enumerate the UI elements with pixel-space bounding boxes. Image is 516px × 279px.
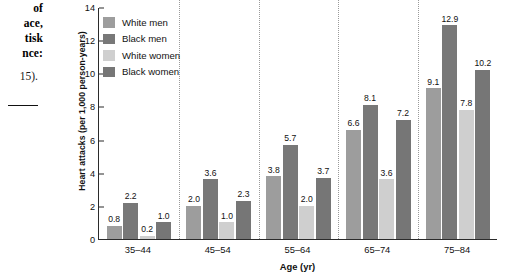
legend-swatch [103, 34, 115, 45]
legend-label: White men [122, 17, 168, 28]
bar-value-label: 2.0 [301, 194, 313, 204]
caption-divider [8, 105, 38, 106]
bar: 2.0 [186, 206, 201, 239]
y-tick-label: 6 [69, 136, 95, 146]
caption-line-1: of [33, 2, 43, 14]
bar: 3.6 [379, 179, 394, 239]
y-tick-label: 4 [69, 169, 95, 179]
caption-reference: 15). [20, 70, 38, 82]
legend-label: Black women [122, 66, 179, 77]
y-tick-mark [99, 206, 104, 207]
bar: 12.9 [442, 25, 457, 239]
legend-item: Black men [103, 31, 180, 48]
legend-label: White women [122, 50, 180, 61]
bar-value-label: 3.6 [381, 168, 393, 178]
bar: 5.7 [283, 145, 298, 239]
bar-value-label: 2.3 [237, 189, 249, 199]
x-tick-label: 55–64 [284, 244, 310, 255]
legend-item: Black women [103, 64, 180, 81]
figure-caption-fragment: of ace, tisk nce: 15). [0, 0, 46, 279]
y-tick-label: 8 [69, 102, 95, 112]
bar: 2.3 [236, 201, 251, 239]
y-tick-mark [99, 140, 104, 141]
bar: 3.7 [316, 178, 331, 239]
y-tick-label: 14 [69, 3, 95, 13]
bar-value-label: 7.2 [397, 108, 409, 118]
bar-value-label: 0.2 [141, 224, 153, 234]
y-tick-label: 0 [69, 235, 95, 245]
bar: 10.2 [475, 70, 490, 239]
bar: 9.1 [426, 88, 441, 239]
y-tick-mark [99, 8, 104, 9]
bar-value-label: 1.0 [221, 211, 233, 221]
x-tick-label: 35–44 [125, 244, 151, 255]
legend-swatch [103, 50, 115, 61]
bar-value-label: 1.0 [158, 211, 170, 221]
bar-value-label: 8.1 [364, 93, 376, 103]
bar: 2.2 [123, 203, 138, 239]
bar: 7.8 [459, 110, 474, 239]
bar-value-label: 3.7 [317, 166, 329, 176]
y-tick-mark [99, 107, 104, 108]
legend-item: White men [103, 14, 180, 31]
group-separator [259, 0, 260, 239]
caption-line-2: ace, [24, 17, 43, 29]
bar-value-label: 6.6 [348, 118, 360, 128]
y-tick-label: 12 [69, 36, 95, 46]
bar-value-label: 2.0 [188, 194, 200, 204]
x-axis-title: Age (yr) [98, 261, 497, 272]
bar-value-label: 5.7 [284, 133, 296, 143]
y-tick-label: 10 [69, 69, 95, 79]
bar-value-label: 7.8 [460, 98, 472, 108]
bar-value-label: 0.8 [108, 214, 120, 224]
bar-value-label: 9.1 [427, 77, 439, 87]
bar-value-label: 3.6 [204, 168, 216, 178]
legend-label: Black men [122, 33, 167, 44]
bar: 7.2 [396, 120, 411, 239]
legend-item: White women [103, 47, 180, 64]
caption-line-3: tisk [25, 32, 43, 44]
bar: 3.8 [266, 176, 281, 239]
group-separator [418, 0, 419, 239]
x-tick-label: 45–54 [205, 244, 231, 255]
bar: 2.0 [299, 206, 314, 239]
x-tick-label: 65–74 [364, 244, 390, 255]
bar: 3.6 [203, 179, 218, 239]
bar-value-label: 3.8 [268, 165, 280, 175]
y-tick-label: 2 [69, 202, 95, 212]
group-separator [338, 0, 339, 239]
bar-value-label: 2.2 [125, 191, 137, 201]
bar: 1.0 [219, 222, 234, 239]
legend: White menBlack menWhite womenBlack women [103, 14, 180, 80]
x-tick-label: 75–84 [444, 244, 470, 255]
bar: 6.6 [346, 130, 361, 239]
bar: 0.8 [107, 226, 122, 239]
bar: 1.0 [156, 222, 171, 239]
bar: 0.2 [140, 236, 155, 239]
caption-line-4: nce: [22, 47, 43, 59]
bar-chart: Heart attacks (per 1,000 person-years) 0… [46, 0, 516, 279]
bar-value-label: 10.2 [474, 58, 491, 68]
legend-swatch [103, 17, 115, 28]
legend-swatch [103, 67, 115, 78]
bar: 8.1 [363, 105, 378, 239]
bar-value-label: 12.9 [441, 14, 458, 24]
y-tick-mark [99, 173, 104, 174]
